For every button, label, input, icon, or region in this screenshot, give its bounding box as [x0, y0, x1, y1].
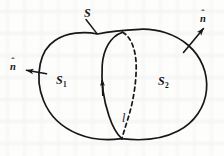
subsurface-label-S1-base: S: [56, 73, 63, 87]
surface-label-S: S: [84, 7, 91, 19]
surface-label-leader-line: [86, 20, 97, 34]
normal-vector-label-left-hat: ˆ: [11, 57, 14, 67]
dividing-curve-front-solid: [102, 32, 123, 138]
subsurface-label-S1-subscript: 1: [63, 80, 67, 89]
orientation-arrowhead-on-curve: [102, 80, 103, 96]
boundary-curve-label-l: l: [122, 112, 125, 124]
subsurface-label-S2: S2: [158, 75, 168, 87]
normal-vector-label-left: n ˆ: [10, 62, 16, 73]
surface-diagram-svg: [0, 0, 224, 156]
normal-vector-label-right: n ˆ: [200, 14, 206, 25]
normal-vector-label-right-hat: ˆ: [201, 9, 204, 19]
subsurface-label-S1: S1: [56, 74, 66, 86]
normal-vector-arrow-left: [27, 70, 47, 74]
subsurface-label-S2-base: S: [158, 74, 165, 88]
figure-container: S S1 S2 l n ˆ n ˆ: [0, 0, 224, 156]
subsurface-label-S2-subscript: 2: [165, 81, 169, 90]
normal-vector-arrow-right: [184, 29, 204, 53]
